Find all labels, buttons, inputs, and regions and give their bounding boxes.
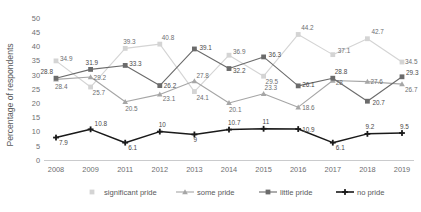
data-point-marker [227,53,232,58]
legend-item-little-pride[interactable]: little pride [259,188,313,197]
data-point-marker [157,129,163,135]
legend-label: significant pride [104,188,157,197]
data-point-marker [365,131,371,137]
data-point-marker [296,83,301,88]
y-tick-label: 45 [32,28,40,37]
y-tick-label: 25 [32,85,40,94]
data-label: 18.6 [302,104,315,111]
y-axis-ticks: 05101520253035404550 [32,14,40,165]
data-label: 23.1 [163,95,176,102]
data-point-marker [365,99,370,104]
x-axis-ticks: 2008200920112012201320142015201620172018… [48,165,410,174]
data-point-marker [399,130,405,136]
data-label: 20.7 [372,99,385,106]
x-tick-label: 2011 [117,165,133,174]
data-point-marker [266,190,271,195]
x-tick-label: 2018 [359,165,375,174]
chart-legend: significant pridesome pridelittle priden… [90,188,385,197]
series-line [56,34,402,91]
data-label: 26.2 [164,82,177,89]
legend-label: little pride [280,188,313,197]
legend-item-some-pride[interactable]: some pride [176,188,235,197]
data-label: 10 [159,121,167,128]
y-axis-title: Percentage of respondents [5,43,15,146]
data-label: 33.3 [129,60,142,67]
data-point-marker [157,83,162,88]
data-label: 34.9 [60,55,73,62]
data-point-marker [400,60,405,65]
data-label: 10.7 [228,119,241,126]
x-tick-label: 2016 [290,165,306,174]
data-point-marker [123,46,128,51]
y-tick-label: 30 [32,71,40,80]
data-point-marker [342,189,348,195]
y-tick-label: 35 [32,56,40,65]
data-label: 9 [193,136,197,143]
data-label: 24.1 [196,94,209,101]
data-label: 20.5 [125,105,138,112]
legend-label: no pride [357,188,384,197]
data-point-marker [88,67,93,72]
data-point-marker [192,78,198,83]
line-chart: Percentage of respondents 05101520253035… [0,0,421,212]
data-label: 26.1 [302,81,315,88]
x-tick-label: 2014 [221,165,237,174]
data-label: 39.3 [123,38,136,45]
data-point-marker [157,42,162,47]
legend-item-no-pride[interactable]: no pride [336,188,384,197]
data-label: 44.2 [301,24,314,31]
data-point-marker [330,76,335,81]
data-point-marker [54,76,59,81]
data-label: 7.9 [59,139,68,146]
data-label: 9.5 [400,123,409,130]
data-point-marker [295,126,301,132]
y-tick-label: 15 [32,113,40,122]
x-tick-label: 2012 [152,165,168,174]
x-tick-label: 2017 [325,165,341,174]
data-point-marker [90,190,95,195]
data-point-marker [400,74,405,79]
data-label: 40.8 [162,34,175,41]
y-tick-label: 10 [32,127,40,136]
data-label: 28.8 [41,68,54,75]
data-label: 11 [263,118,270,125]
data-label: 6.1 [128,144,137,151]
x-tick-label: 2009 [82,165,98,174]
data-point-marker [227,66,232,71]
series-no-pride [53,126,405,146]
data-label: 20.1 [229,106,242,113]
data-label: 9.2 [365,123,374,130]
data-label: 27.6 [370,78,383,85]
data-label: 36.3 [269,51,282,58]
x-tick-label: 2008 [48,165,64,174]
y-tick-label: 40 [32,42,40,51]
y-tick-label: 0 [36,156,40,165]
data-point-marker [365,36,370,41]
data-point-marker [123,63,128,68]
legend-label: some pride [197,188,235,197]
data-label: 31.9 [86,59,99,66]
data-point-marker [54,58,59,63]
data-label: 28.4 [55,83,68,90]
data-point-marker [226,127,232,133]
y-tick-label: 50 [32,14,40,23]
data-label: 32.2 [233,67,246,74]
data-label: 28 [336,79,344,86]
chart-container: Percentage of respondents 05101520253035… [0,0,421,212]
legend-item-significant-pride[interactable]: significant pride [90,188,157,197]
data-point-marker [192,47,197,52]
data-label: 34.5 [405,58,418,65]
data-label: 29.3 [406,69,419,76]
data-point-marker [88,126,94,132]
data-label: 36.9 [233,48,246,55]
data-point-marker [296,32,301,37]
data-label: 10.9 [302,126,315,133]
data-label: 26.7 [405,86,418,93]
data-label: 6.1 [336,144,345,151]
y-tick-label: 20 [32,99,40,108]
data-point-marker [261,55,266,60]
data-label: 29.2 [94,74,107,81]
y-axis-title-text: Percentage of respondents [5,43,15,146]
y-tick-label: 5 [36,142,40,151]
data-point-marker [261,126,267,132]
